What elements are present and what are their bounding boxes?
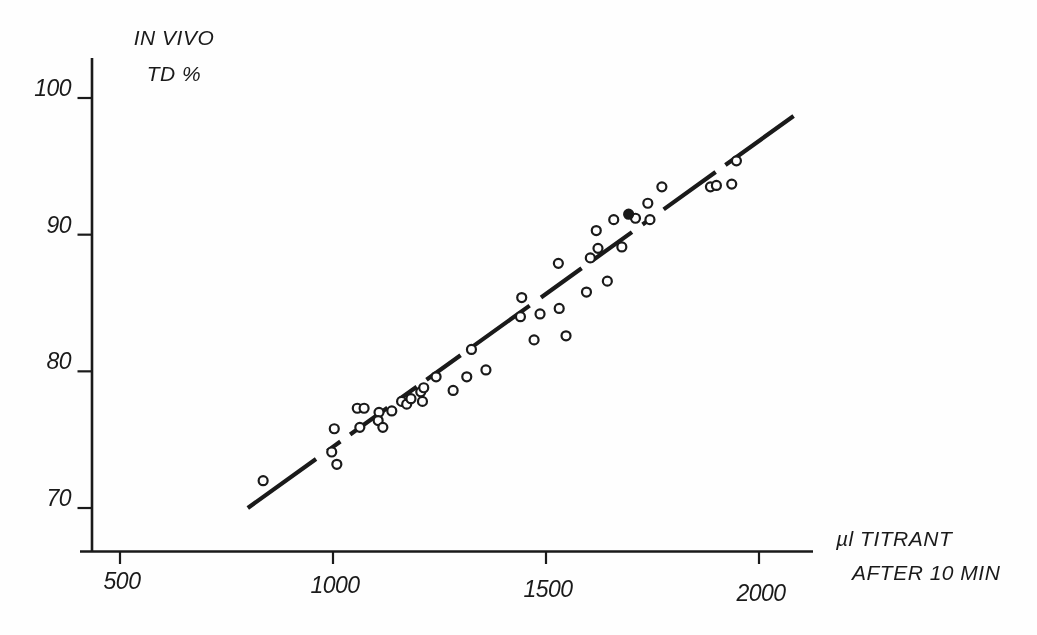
y-axis-title-line1: IN VIVO bbox=[124, 20, 224, 56]
x-tick-label: 1000 bbox=[310, 572, 360, 598]
data-point bbox=[481, 365, 490, 374]
x-axis-title-line1: µl TITRANT bbox=[836, 522, 1000, 556]
data-point bbox=[593, 244, 602, 253]
y-tick-label: 90 bbox=[46, 212, 71, 238]
x-tick-label: 500 bbox=[104, 568, 142, 594]
data-point bbox=[332, 460, 341, 469]
data-point bbox=[536, 309, 545, 318]
y-axis-title-line2: TD % bbox=[124, 56, 224, 92]
data-point bbox=[387, 406, 396, 415]
data-point bbox=[727, 180, 736, 189]
y-tick-label: 100 bbox=[34, 75, 72, 101]
x-tick-label: 2000 bbox=[735, 580, 786, 606]
data-point bbox=[712, 181, 721, 190]
data-point bbox=[530, 335, 539, 344]
data-point bbox=[562, 331, 571, 340]
data-point bbox=[432, 372, 441, 381]
data-point bbox=[449, 386, 458, 395]
y-tick-label: 70 bbox=[46, 485, 71, 511]
data-point bbox=[609, 215, 618, 224]
data-point-filled bbox=[624, 210, 633, 219]
x-tick-label: 1500 bbox=[523, 576, 573, 602]
data-point bbox=[554, 259, 563, 268]
data-point bbox=[360, 404, 369, 413]
data-point bbox=[555, 304, 564, 313]
data-point bbox=[582, 288, 591, 297]
data-point bbox=[330, 424, 339, 433]
data-point bbox=[732, 156, 741, 165]
data-point bbox=[592, 226, 601, 235]
data-point bbox=[418, 397, 427, 406]
data-point bbox=[378, 423, 387, 432]
data-point bbox=[617, 242, 626, 251]
data-point bbox=[259, 476, 268, 485]
y-tick-label: 80 bbox=[46, 348, 71, 374]
scatter-figure: 100908070500100015002000 IN VIVO TD % µl… bbox=[0, 0, 1037, 635]
data-point bbox=[586, 253, 595, 262]
data-point bbox=[327, 447, 336, 456]
data-point bbox=[643, 199, 652, 208]
data-point bbox=[516, 312, 525, 321]
data-point bbox=[419, 383, 428, 392]
data-point bbox=[603, 277, 612, 286]
y-axis-title: IN VIVO TD % bbox=[124, 20, 224, 92]
data-point bbox=[355, 423, 364, 432]
data-point bbox=[462, 372, 471, 381]
data-point bbox=[645, 215, 654, 224]
data-point bbox=[657, 182, 666, 191]
x-axis-title-line2: AFTER 10 MIN bbox=[836, 556, 1000, 590]
data-point bbox=[517, 293, 526, 302]
data-point bbox=[406, 394, 415, 403]
x-axis-title: µl TITRANT AFTER 10 MIN bbox=[836, 522, 1000, 590]
data-point bbox=[467, 345, 476, 354]
